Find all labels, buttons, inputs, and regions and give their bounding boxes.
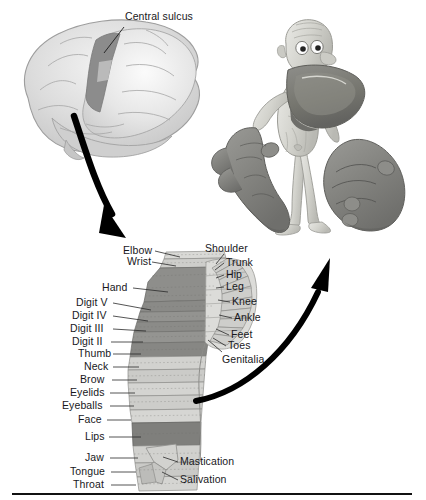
strip-band-digit-iii [134, 321, 211, 332]
strip-label-knee: Knee [232, 296, 257, 307]
strip-label-genitalia: Genitalia [222, 354, 264, 365]
strip-label-hand: Hand [102, 282, 128, 293]
brain-illustration [25, 20, 200, 160]
strip-band-face [130, 409, 202, 423]
homunculus-ear [277, 45, 286, 57]
central-sulcus-label: Central sulcus [125, 11, 193, 22]
homunculus-illustration [212, 20, 405, 235]
strip-label-digit-ii: Digit II [72, 336, 103, 347]
strip-label-neck: Neck [84, 361, 108, 372]
homunculus-nose [320, 52, 336, 65]
strip-label-mastication: Mastication [180, 456, 234, 467]
homunculus-right-leg [300, 150, 320, 226]
strip-label-wrist: Wrist [127, 256, 151, 267]
homunculus-right-pupil [315, 45, 321, 51]
strip-label-digit-v: Digit V [76, 297, 108, 308]
strip-label-leg: Leg [226, 281, 244, 292]
strip-label-thumb: Thumb [78, 348, 111, 359]
strip-label-brow: Brow [80, 374, 104, 385]
strip-label-trunk: Trunk [226, 257, 253, 268]
strip-label-face: Face [78, 414, 102, 425]
strip-label-salivation: Salivation [180, 474, 227, 485]
strip-band-neck [128, 356, 206, 370]
strip-label-eyeballs: Eyeballs [62, 400, 103, 411]
strip-band-eyeballs [129, 395, 203, 410]
strip-label-jaw: Jaw [85, 452, 104, 463]
homunculus-right-hand [324, 139, 405, 231]
strip-label-digit-iii: Digit III [70, 323, 104, 334]
strip-band-eyelids [128, 382, 204, 396]
strip-label-toes: Toes [228, 340, 251, 351]
strip-label-hip: Hip [226, 269, 242, 280]
homunculus-right-foot [309, 222, 331, 233]
homunculus-left-hand [212, 128, 290, 233]
strip-label-throat: Throat [73, 479, 104, 490]
strip-label-digit-iv: Digit IV [72, 310, 107, 321]
strip-label-eyelids: Eyelids [70, 387, 105, 398]
strip-label-tongue: Tongue [70, 466, 105, 477]
strip-label-ankle: Ankle [234, 312, 261, 323]
strip-label-shoulder: Shoulder [205, 243, 248, 254]
strip-band-lips [132, 422, 201, 446]
strip-band-digit-ii [132, 331, 210, 343]
strip-label-lips: Lips [85, 431, 105, 442]
strip-band-hand [144, 267, 215, 302]
homunculus-left-pupil [300, 46, 306, 52]
